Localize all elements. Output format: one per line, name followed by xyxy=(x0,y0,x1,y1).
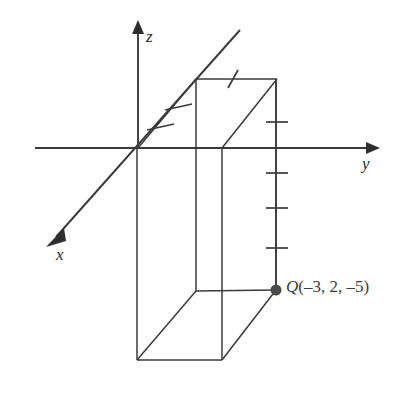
z-axis-label: z xyxy=(146,28,153,45)
box-bottom-left-edge xyxy=(137,291,196,360)
x-axis-line xyxy=(56,30,240,237)
tick-marks-group xyxy=(147,70,288,248)
x-axis-label: x xyxy=(56,246,64,263)
axes-group xyxy=(35,20,380,247)
z-axis-arrow-icon xyxy=(132,20,144,34)
point-q-label: Q(–3, 2, –5) xyxy=(286,278,369,295)
figure-canvas xyxy=(0,0,411,397)
x-axis-tick-2 xyxy=(165,104,192,110)
point-q-name: Q xyxy=(286,277,298,296)
y-axis-arrow-icon xyxy=(366,142,380,154)
point-q-dot[interactable] xyxy=(271,285,282,296)
point-q-coordinates: (–3, 2, –5) xyxy=(298,277,369,296)
x-axis-tick-1 xyxy=(147,124,174,130)
box-bottom-right-edge xyxy=(222,290,276,360)
box-top-right-edge xyxy=(222,79,277,148)
coordinate-figure: z y x Q(–3, 2, –5) xyxy=(0,0,411,397)
y-axis-label: y xyxy=(362,155,370,172)
box-bottom-back-edge xyxy=(196,290,276,291)
